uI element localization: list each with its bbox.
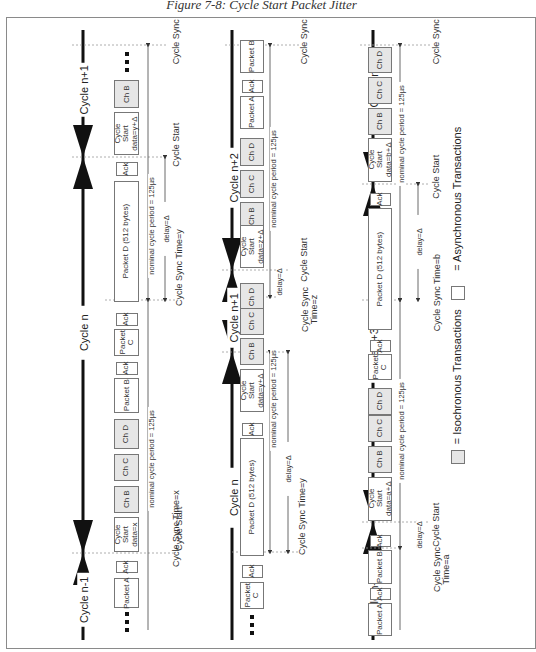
packet-ch-b: Ch B (240, 338, 264, 365)
period-label: nominal cycle period = 125µs (148, 407, 156, 511)
ellipsis-icon (250, 615, 254, 639)
packet-c: Packet C (368, 354, 392, 380)
delay-label: delay=Δ (416, 215, 424, 269)
packet-b: Packet B (368, 550, 392, 584)
cycle-sync-time-label: Cycle Sync Time=z (301, 279, 320, 339)
packet-d: Packet D (512 bytes) (240, 438, 264, 556)
packet-cycle-start: Cycle Start data=y+Δ (240, 369, 264, 412)
packet-ch-c: Ch C (240, 308, 264, 335)
packet-ack: Ack (242, 80, 263, 93)
packet-a: Packet A (114, 578, 139, 608)
packet-ch-d: Ch D (240, 138, 264, 166)
delay-label: delay=Δ (276, 260, 284, 304)
packet-ch-c: Ch C (368, 77, 392, 104)
packet-ch-c: Ch C (240, 170, 264, 198)
packet-ack: Ack (370, 535, 391, 547)
packet-ch-b: Ch B (114, 486, 139, 513)
packet-b: Packet B (240, 40, 264, 73)
packet-d: Packet D (512 bytes) (368, 208, 392, 330)
cycle-label-n: Cycle n (77, 306, 93, 360)
ellipsis-icon (125, 612, 129, 636)
packet-cycle-start: Cycle Start data=y+Δ (114, 112, 139, 155)
packet-ack: Ack (370, 340, 391, 352)
cycle-start-label: Cycle Start (432, 147, 441, 207)
packet-ack: Ack (370, 588, 391, 600)
packet-ack: Ack (242, 565, 263, 578)
packet-a: Packet A (240, 96, 264, 129)
cycle-label-n-minus-1: Cycle n-1 (77, 573, 93, 627)
delay-label: delay=Δ (163, 202, 171, 256)
legend-iso-swatch (451, 450, 465, 464)
cycle-sync-time-label: Cycle Sync Time=y (175, 223, 184, 313)
packet-ch-c: Ch C (114, 454, 139, 481)
packet-ack: Ack (242, 423, 263, 436)
packet-ch-b: Ch B (114, 80, 139, 108)
packet-c: Packet C (114, 329, 139, 356)
legend-iso-label: = Isochronous Transactions (452, 307, 464, 447)
packet-cycle-start: Cycle Start data=a+Δ (368, 477, 392, 521)
packet-ch-b: Ch B (368, 108, 392, 135)
packet-ch-d: Ch D (368, 388, 392, 415)
packet-cycle-start: Cycle Start data=x (114, 517, 139, 552)
period-label: nominal cycle period = 125µs (398, 379, 406, 483)
packet-ack: Ack (116, 313, 138, 326)
delay-label: delay=Δ (416, 513, 424, 557)
packet-ch-d: Ch D (114, 419, 139, 449)
cycle-start-label: Cycle Start (172, 115, 181, 175)
legend-async-label: = Asynchronous Transactions (452, 131, 464, 271)
cycle-sync-label: Cycle Sync (172, 12, 181, 72)
cycle-sync-time-label: Cycle Sync Time=a (433, 539, 452, 599)
packet-ack: Ack (370, 193, 391, 206)
cycle-sync-label: Cycle Sync (432, 12, 441, 72)
packet-ch-c: Ch C (368, 415, 392, 442)
legend-async-swatch (451, 286, 465, 300)
cycle-sync-label: Cycle Sync (300, 12, 309, 72)
cycle-sync-time-label: Cycle Sync Time=y (298, 472, 307, 562)
packet-d: Packet D (512 bytes) (114, 181, 139, 302)
packet-cycle-start: Cycle Start data=b+Δ (368, 138, 392, 182)
packet-ch-d: Ch D (240, 283, 264, 311)
period-label: nominal cycle period = 125µs (270, 347, 278, 451)
period-label: nominal cycle period = 125µs (398, 82, 406, 186)
period-label: nominal cycle period = 125µs (270, 127, 278, 231)
packet-b: Packet B (114, 378, 139, 413)
packet-ack: Ack (116, 362, 138, 375)
packet-ch-b: Ch B (368, 446, 392, 473)
cycle-label-n-plus-1: Cycle n+1 (77, 63, 93, 117)
packet-c: Packet C (240, 582, 264, 609)
packet-ch-d: Ch D (368, 47, 392, 73)
cycle-sync-time-label: Cycle Sync Time=b (433, 248, 442, 338)
period-label: nominal cycle period = 125µs (148, 174, 156, 278)
packet-ack: Ack (116, 561, 138, 573)
delay-label: delay=Δ (285, 442, 293, 496)
packet-ack: Ack (116, 162, 138, 176)
ellipsis-icon (125, 52, 129, 76)
cycle-start-label: Cycle Start (175, 494, 184, 564)
packet-a: Packet A (368, 603, 392, 636)
packet-cycle-start: Cycle Start data=z+Δ (240, 225, 264, 268)
